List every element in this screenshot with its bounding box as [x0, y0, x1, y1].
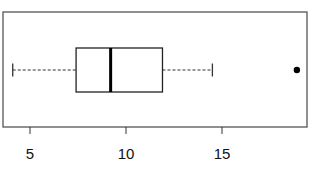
- x-tick-label: 15: [214, 145, 231, 162]
- outlier-point: [294, 67, 300, 73]
- x-tick-label: 10: [118, 145, 135, 162]
- outlier-points: [294, 67, 300, 73]
- x-tick-label: 5: [26, 145, 34, 162]
- iqr-box: [76, 48, 162, 92]
- boxplot-chart: 51015: [0, 0, 309, 178]
- x-axis: 51015: [26, 127, 231, 162]
